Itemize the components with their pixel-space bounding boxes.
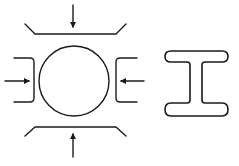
right-die [116, 58, 137, 102]
bottom-die [25, 127, 126, 136]
round-billet-assembly [5, 5, 144, 157]
forming-diagram [0, 0, 239, 166]
i-beam-section [165, 51, 228, 116]
left-die [14, 58, 34, 102]
top-die [25, 24, 126, 34]
round-billet [39, 46, 109, 116]
